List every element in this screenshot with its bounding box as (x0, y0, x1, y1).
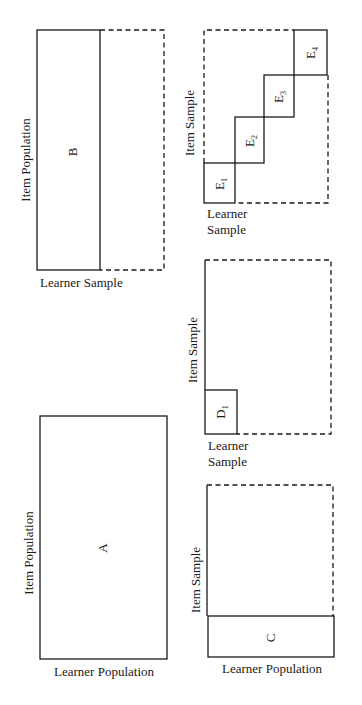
sampling-design-diagram: B Item Population Learner Sample A Item … (0, 0, 362, 705)
panel-a-x-axis-label: Learner Population (54, 664, 154, 679)
svg-text:E2: E2 (242, 135, 259, 147)
panel-c-dashed-outline (207, 485, 333, 616)
panel-e: E1 E2 E3 E4 Item Sample Learner Sample (182, 30, 328, 237)
panel-a-y-axis-label: Item Population (21, 511, 36, 595)
panel-d-x-axis-label-line2: Sample (208, 454, 247, 469)
panel-e-cell-3-label: E3 (271, 91, 288, 103)
panel-c-y-axis-label: Item Sample (188, 547, 203, 613)
svg-text:E3: E3 (271, 91, 288, 103)
panel-a-solid-region (40, 416, 167, 659)
panel-d-cell-1-label: D1 (213, 405, 230, 418)
panel-d-y-axis-label: Item Sample (185, 317, 200, 383)
panel-c-x-axis-label: Learner Population (222, 661, 322, 676)
panel-b-x-axis-label: Learner Sample (40, 275, 123, 290)
panel-e-cell-2-label: E2 (242, 135, 259, 147)
panel-b: B Item Population Learner Sample (18, 30, 164, 290)
panel-e-y-axis-label: Item Sample (182, 90, 197, 156)
svg-text:E1: E1 (212, 178, 229, 190)
panel-d: D1 Item Sample Learner Sample (185, 260, 331, 469)
panel-a-cell-label: A (95, 543, 110, 553)
panel-c: C Item Sample Learner Population (188, 485, 334, 676)
panel-e-x-axis-label-line2: Sample (207, 222, 246, 237)
panel-e-x-axis-label-line1: Learner (207, 206, 248, 221)
panel-b-y-axis-label: Item Population (18, 118, 33, 202)
panel-e-cell-4-label: E4 (303, 47, 320, 59)
panel-a: A Item Population Learner Population (21, 416, 167, 679)
panel-b-dashed-population-outline (100, 30, 164, 270)
panel-e-cell-1-label: E1 (212, 178, 229, 190)
svg-text:D1: D1 (213, 405, 230, 418)
svg-text:E4: E4 (303, 47, 320, 59)
panel-c-cell-label: C (263, 634, 278, 643)
panel-d-x-axis-label-line1: Learner (208, 438, 249, 453)
panel-b-cell-label: B (65, 147, 80, 156)
